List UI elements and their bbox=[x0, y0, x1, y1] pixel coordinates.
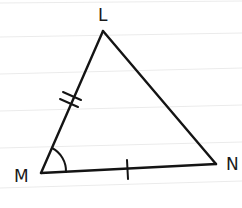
double-tick-mark-LM bbox=[60, 92, 81, 107]
angle-arc-M bbox=[52, 148, 66, 172]
triangle-diagram bbox=[0, 0, 242, 208]
vertex-label-N: N bbox=[226, 156, 239, 173]
ruled-lines bbox=[0, 1, 242, 188]
side-LM bbox=[41, 31, 103, 173]
vertex-label-M: M bbox=[14, 168, 29, 185]
single-tick-mark-MN bbox=[127, 160, 128, 179]
vertex-label-L: L bbox=[98, 7, 107, 24]
